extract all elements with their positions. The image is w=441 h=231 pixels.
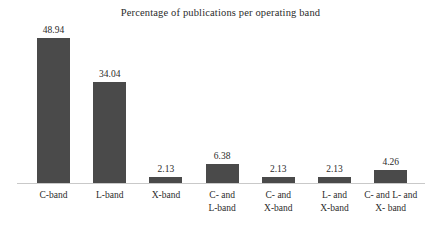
bar: [149, 177, 182, 183]
bar-value-label: 48.94: [24, 25, 84, 35]
bar-value-label: 2.13: [248, 164, 308, 174]
bar-value-label: 34.04: [80, 69, 140, 79]
bar-value-label: 2.13: [305, 164, 365, 174]
x-axis-tick-label: C- and L- andX- band: [355, 189, 427, 214]
x-axis-tick-label-line: C- and L- and: [355, 189, 427, 202]
plot-area: 48.9434.042.136.382.132.134.26 C-bandL-b…: [0, 0, 441, 231]
bar: [37, 38, 70, 183]
x-axis-tick-label-line: X- band: [355, 202, 427, 215]
bar: [318, 177, 351, 183]
bar: [262, 177, 295, 183]
bar: [206, 164, 239, 183]
bar: [374, 170, 407, 183]
bar-value-label: 6.38: [192, 151, 252, 161]
bar: [93, 82, 126, 183]
bar-value-label: 4.26: [361, 157, 421, 167]
bar-value-label: 2.13: [136, 164, 196, 174]
bar-chart: Percentage of publications per operating…: [0, 0, 441, 231]
x-axis-line: [17, 183, 425, 184]
